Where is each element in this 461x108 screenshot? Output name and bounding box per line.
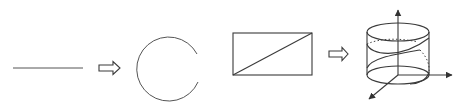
transformation-diagram: [0, 0, 461, 108]
open-circle: [137, 37, 198, 101]
x-axis: [369, 75, 398, 99]
rectangle-with-diagonal: [233, 33, 312, 75]
hollow-arrow-2: [329, 48, 348, 61]
hollow-arrow-1: [99, 62, 120, 75]
